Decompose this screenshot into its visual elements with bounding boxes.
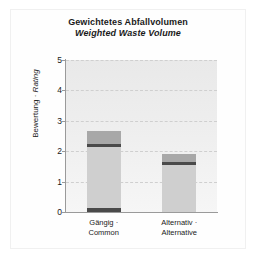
y-tick-mark-0 (62, 212, 66, 213)
y-tick-label-2: 2 (42, 146, 62, 156)
y-axis-spine (65, 59, 66, 213)
bar-segment-cap (87, 131, 121, 143)
y-axis-label: Bewertung · Rating (31, 38, 40, 170)
bar-1 (162, 154, 196, 212)
plot-area (66, 60, 217, 212)
y-axis-label-german: Bewertung (31, 100, 40, 138)
chart-title-german: Gewichtetes Abfallvolumen (0, 17, 256, 28)
bar-segment-body (87, 147, 121, 209)
x-tick-label-1: Alternativ ·Alternative (131, 218, 227, 237)
y-axis-label-separator: · (31, 92, 40, 99)
x-axis-spine (65, 212, 218, 213)
y-tick-label-3: 3 (42, 116, 62, 126)
x-tick-label-line2: Alternative (131, 228, 227, 238)
y-tick-label-1: 1 (42, 177, 62, 187)
gridline-4 (66, 90, 217, 91)
bar-segment-band (162, 162, 196, 165)
gridline-3 (66, 121, 217, 122)
y-tick-label-5: 5 (42, 55, 62, 65)
y-axis-label-english: Rating (31, 69, 40, 92)
y-tick-mark-5 (62, 60, 66, 61)
chart-figure: Gewichtetes Abfallvolumen Weighted Waste… (0, 0, 256, 267)
y-tick-mark-2 (62, 151, 66, 152)
y-tick-mark-4 (62, 90, 66, 91)
bar-segment-band (87, 144, 121, 147)
bar-segment-cap (162, 154, 196, 162)
y-tick-mark-3 (62, 121, 66, 122)
gridline-5 (66, 60, 217, 61)
chart-title-block: Gewichtetes Abfallvolumen Weighted Waste… (0, 17, 256, 39)
x-tick-label-line1: Alternativ · (131, 218, 227, 228)
y-tick-mark-1 (62, 182, 66, 183)
bar-0 (87, 131, 121, 212)
y-tick-label-0: 0 (42, 207, 62, 217)
y-tick-label-4: 4 (42, 85, 62, 95)
bar-segment-body (162, 165, 196, 212)
